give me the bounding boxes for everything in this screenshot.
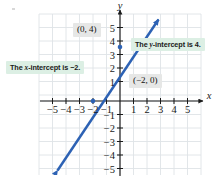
coordinate-plane: −5 −4 −3 −2 −1 1 2 3 4 5 5 4 3 2 1 −1 −2…: [0, 0, 222, 186]
ytick--5: −5: [104, 164, 115, 175]
ytick-3: 3: [110, 50, 115, 61]
graph-figure: −5 −4 −3 −2 −1 1 2 3 4 5 5 4 3 2 1 −1 −2…: [0, 0, 222, 186]
xtick-3: 3: [158, 104, 163, 115]
axes: [40, 10, 203, 176]
xtick--4: −4: [60, 104, 72, 115]
xtick-2: 2: [144, 104, 149, 115]
point-y-intercept: [118, 45, 123, 50]
ytick--1: −1: [104, 110, 115, 121]
ytick-1: 1: [110, 77, 115, 88]
callout-x-prefix: The: [10, 63, 25, 72]
callout-x-intercept: The x-intercept is −2.: [6, 61, 84, 74]
xtick--3: −3: [74, 104, 85, 115]
callout-y-intercept: The y-intercept is 4.: [131, 38, 205, 51]
xtick-1: 1: [131, 104, 136, 115]
ytick-4: 4: [110, 36, 116, 47]
ytick-2: 2: [110, 63, 115, 74]
xtick--5: −5: [47, 104, 58, 115]
y-axis-label: y: [117, 0, 123, 11]
point-x-intercept: [91, 99, 96, 104]
callout-x-suffix: -intercept is −2.: [28, 63, 80, 72]
point-label-x-intercept: (−2, 0): [129, 74, 162, 88]
point-label-y-intercept: (0, 4): [73, 23, 101, 37]
ytick--3: −3: [104, 137, 115, 148]
xtick-4: 4: [171, 104, 177, 115]
ytick--2: −2: [104, 123, 115, 134]
ytick--4: −4: [104, 150, 116, 161]
callout-y-suffix: -intercept is 4.: [153, 40, 201, 49]
xtick--2: −2: [87, 104, 98, 115]
callout-y-prefix: The: [135, 40, 150, 49]
xtick-5: 5: [185, 104, 190, 115]
x-axis-label: x: [206, 90, 212, 101]
ytick-5: 5: [110, 23, 115, 34]
